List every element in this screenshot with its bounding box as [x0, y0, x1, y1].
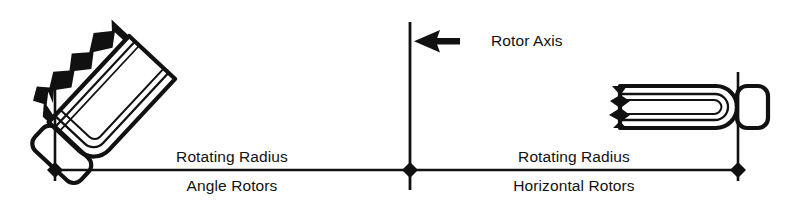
- angle-rotors-label: Angle Rotors: [187, 177, 278, 194]
- rotating-radius-label-right: Rotating Radius: [518, 148, 630, 165]
- rotor-radius-diagram: Rotor Axis Rotating Radius Angle Rotors …: [0, 0, 792, 212]
- horizontal-rotors-label: Horizontal Rotors: [513, 177, 635, 194]
- rotor-axis-label: Rotor Axis: [491, 32, 563, 49]
- rotating-radius-label-left: Rotating Radius: [176, 148, 288, 165]
